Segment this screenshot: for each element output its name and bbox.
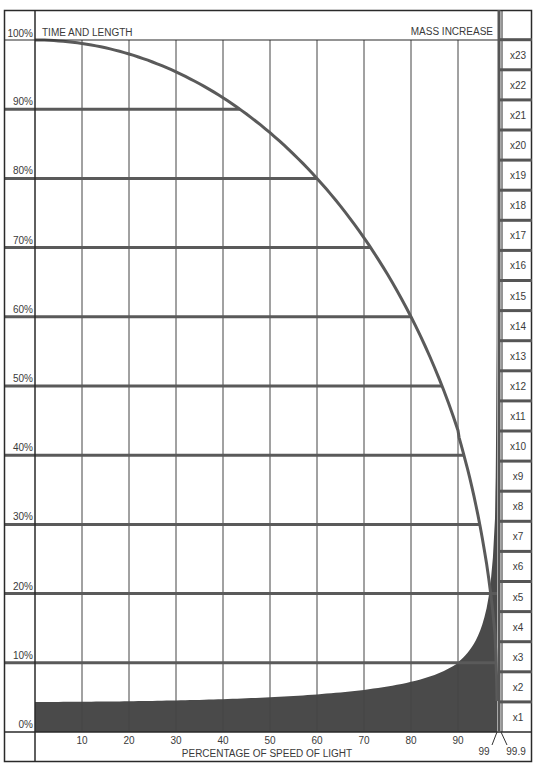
mass-tick-label: x13 xyxy=(510,351,527,362)
mass-tick-label: x21 xyxy=(510,110,527,121)
x-tick-label: 60 xyxy=(311,735,323,746)
x-tick-label: 20 xyxy=(123,735,135,746)
x-tick-99-9: 99.9 xyxy=(506,746,526,757)
mass-tick-label: x5 xyxy=(513,592,524,603)
mass-tick-label: x20 xyxy=(510,140,527,151)
y-tick-label: 10% xyxy=(13,650,33,661)
mass-tick-label: x19 xyxy=(510,170,527,181)
y-tick-label: 90% xyxy=(13,96,33,107)
y-tick-label: 20% xyxy=(13,581,33,592)
left-header: TIME AND LENGTH xyxy=(42,27,133,38)
x-tick-label: 80 xyxy=(405,735,417,746)
x-axis-title: PERCENTAGE OF SPEED OF LIGHT xyxy=(182,748,352,759)
mass-tick-label: x1 xyxy=(513,712,524,723)
x-tick-label: 70 xyxy=(358,735,370,746)
mass-tick-label: x10 xyxy=(510,441,527,452)
mass-tick-label: x22 xyxy=(510,80,527,91)
x-tick-label: 50 xyxy=(264,735,276,746)
y-tick-label: 30% xyxy=(13,511,33,522)
x-tick-99: 99 xyxy=(478,746,490,757)
x-tick-label: 90 xyxy=(452,735,464,746)
y-tick-label: 60% xyxy=(13,304,33,315)
y-tick-label: 80% xyxy=(13,165,33,176)
x-tick-label: 40 xyxy=(217,735,229,746)
mass-tick-label: x4 xyxy=(513,622,524,633)
x-tick-label: 30 xyxy=(170,735,182,746)
mass-tick-label: x17 xyxy=(510,230,527,241)
mass-tick-label: x23 xyxy=(510,50,527,61)
y-tick-label: 70% xyxy=(13,235,33,246)
mass-tick-label: x11 xyxy=(510,411,526,422)
mass-tick-label: x12 xyxy=(510,381,527,392)
x-tick-label: 10 xyxy=(76,735,88,746)
y-tick-label: 0% xyxy=(19,719,34,730)
mass-tick-label: x18 xyxy=(510,200,527,211)
mass-tick-label: x3 xyxy=(513,652,524,663)
mass-tick-label: x6 xyxy=(513,561,524,572)
mass-tick-label: x7 xyxy=(513,531,524,542)
mass-tick-label: x15 xyxy=(510,291,527,302)
mass-tick-label: x2 xyxy=(513,682,524,693)
y-tick-label: 50% xyxy=(13,373,33,384)
right-header: MASS INCREASE xyxy=(411,26,494,37)
y-tick-label: 40% xyxy=(13,442,33,453)
background xyxy=(0,0,537,767)
y-tick-label: 100% xyxy=(7,28,33,39)
mass-tick-label: x14 xyxy=(510,321,527,332)
relativity-chart: TIME AND LENGTH MASS INCREASE 0%10%20%30… xyxy=(0,0,537,767)
mass-tick-label: x8 xyxy=(513,501,524,512)
mass-tick-label: x9 xyxy=(513,471,524,482)
mass-tick-label: x16 xyxy=(510,260,527,271)
